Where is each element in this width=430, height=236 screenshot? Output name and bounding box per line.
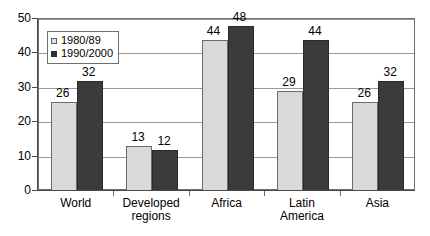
x-axis-tick <box>264 191 265 196</box>
x-axis-tick <box>340 191 341 196</box>
bar-value-label: 32 <box>70 66 108 78</box>
legend: 1980/89 1990/2000 <box>47 31 119 64</box>
y-axis-tick-label: 0 <box>3 184 31 196</box>
y-axis-tick <box>32 121 37 122</box>
bar-chart: · · · · · · · · · · · · 01020304050 2632… <box>0 0 430 236</box>
cropped-title-text: · · · · · · · · · · · · <box>70 0 360 4</box>
bar <box>277 91 303 191</box>
y-axis-tick <box>32 87 37 88</box>
x-axis-line <box>38 190 415 191</box>
legend-label: 1990/2000 <box>61 48 113 59</box>
bar-value-label: 44 <box>195 25 233 37</box>
bar <box>303 40 329 191</box>
bar <box>202 40 228 191</box>
legend-entry-1980-89: 1980/89 <box>51 34 113 47</box>
y-axis-tick <box>32 156 37 157</box>
y-axis-tick <box>32 18 37 19</box>
bar-value-label: 26 <box>345 87 383 99</box>
bar <box>228 26 254 191</box>
y-axis-tick <box>32 52 37 53</box>
x-axis-category-label-line: regions <box>106 210 196 223</box>
bar <box>152 150 178 191</box>
bar-value-label: 12 <box>145 135 183 147</box>
y-axis-tick-label: 40 <box>3 46 31 58</box>
y-axis-tick-label: 20 <box>3 115 31 127</box>
bar-value-label: 44 <box>296 25 334 37</box>
bar-value-label: 32 <box>371 66 409 78</box>
bar <box>51 102 77 191</box>
x-axis-category-label-line: America <box>257 210 347 223</box>
bar-value-label: 48 <box>221 11 259 23</box>
legend-label: 1980/89 <box>61 35 101 46</box>
x-axis-category-label-line: Asia <box>332 197 422 210</box>
x-axis-tick <box>189 191 190 196</box>
y-axis-tick-label: 30 <box>3 81 31 93</box>
bar-value-label: 26 <box>44 87 82 99</box>
legend-entry-1990-2000: 1990/2000 <box>51 47 113 60</box>
bar <box>352 102 378 191</box>
light-square-marker-icon <box>51 38 57 44</box>
y-axis-tick-label: 50 <box>3 12 31 24</box>
dark-square-marker-icon <box>51 51 57 57</box>
bar <box>126 146 152 191</box>
y-axis-labels: 01020304050 <box>0 0 31 236</box>
bar-value-label: 29 <box>270 76 308 88</box>
y-axis-tick <box>32 190 37 191</box>
x-axis-category-label: Asia <box>332 197 422 210</box>
y-axis-tick-label: 10 <box>3 150 31 162</box>
x-axis-tick <box>113 191 114 196</box>
cropped-title-sliver: · · · · · · · · · · · · <box>70 0 360 5</box>
